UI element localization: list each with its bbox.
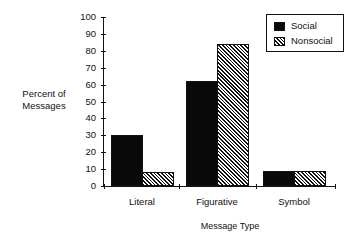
bar-figurative-social <box>186 81 218 186</box>
y-tick <box>101 17 106 18</box>
y-tick-label: 60 <box>66 80 96 90</box>
y-tick <box>101 68 106 69</box>
y-tick-label: 70 <box>66 63 96 73</box>
y-tick-label: 50 <box>66 97 96 107</box>
x-tick <box>335 184 336 189</box>
y-tick-label: 90 <box>66 29 96 39</box>
y-tick <box>101 51 106 52</box>
x-axis <box>103 186 336 187</box>
y-tick <box>101 169 106 170</box>
x-category-label: Literal <box>102 196 182 207</box>
bar-symbol-nonsocial <box>294 171 326 186</box>
x-tick <box>104 184 105 189</box>
y-tick <box>101 34 106 35</box>
y-tick <box>101 152 106 153</box>
y-tick <box>101 102 106 103</box>
x-axis-label: Message Type <box>170 221 290 231</box>
y-tick <box>101 135 106 136</box>
y-tick-label: 0 <box>66 181 96 191</box>
y-tick <box>101 85 106 86</box>
y-tick <box>101 118 106 119</box>
x-tick <box>256 184 257 189</box>
y-tick-label: 30 <box>66 130 96 140</box>
bar-figurative-nonsocial <box>217 44 249 186</box>
x-tick <box>179 184 180 189</box>
y-tick-label: 100 <box>66 12 96 22</box>
bar-literal-nonsocial <box>142 172 174 186</box>
bar-literal-social <box>111 135 143 186</box>
legend-label-nonsocial: Nonsocial <box>291 35 333 46</box>
legend-swatch-social <box>274 22 285 31</box>
x-category-label: Symbol <box>254 196 334 207</box>
legend-label-social: Social <box>291 20 317 31</box>
legend-swatch-nonsocial <box>274 37 285 46</box>
legend: Social Nonsocial <box>266 14 344 52</box>
y-tick-label: 10 <box>66 164 96 174</box>
y-tick-label: 80 <box>66 46 96 56</box>
y-tick-label: 40 <box>66 113 96 123</box>
y-tick-label: 20 <box>66 147 96 157</box>
bar-symbol-social <box>263 171 295 186</box>
x-category-label: Figurative <box>177 196 257 207</box>
